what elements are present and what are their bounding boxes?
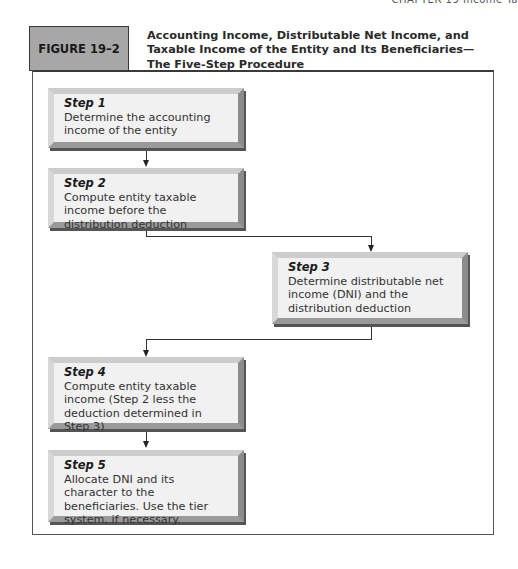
step-2-box: Step 2 Compute entity taxable income bef… xyxy=(48,168,244,228)
step-1-text: Determine the accounting income of the e… xyxy=(64,111,230,138)
step-1-box: Step 1 Determine the accounting income o… xyxy=(48,88,244,148)
arrow-down-icon xyxy=(143,350,149,357)
step-5-title: Step 5 xyxy=(64,459,230,473)
arrow-down-icon xyxy=(143,441,149,448)
step-3-title: Step 3 xyxy=(288,261,454,275)
step-1-title: Step 1 xyxy=(64,97,230,111)
step-5-text: Allocate DNI and its character to the be… xyxy=(64,473,230,527)
connector-3-4-horizontal xyxy=(146,339,372,340)
arrow-down-icon xyxy=(143,160,149,167)
running-head: CHAPTER 19 Income Ta xyxy=(392,0,518,5)
step-4-title: Step 4 xyxy=(64,366,230,380)
step-3-text: Determine distributable net income (DNI)… xyxy=(288,275,454,316)
connector-2-3-horizontal xyxy=(146,236,371,237)
figure-label: FIGURE 19–2 xyxy=(29,26,129,71)
arrow-down-icon xyxy=(368,245,374,252)
step-2-text: Compute entity taxable income before the… xyxy=(64,191,230,232)
step-4-box: Step 4 Compute entity taxable income (St… xyxy=(48,357,244,429)
figure-title: Accounting Income, Distributable Net Inc… xyxy=(147,29,487,72)
step-4-text: Compute entity taxable income (Step 2 le… xyxy=(64,380,230,434)
step-3-box: Step 3 Determine distributable net incom… xyxy=(272,252,468,324)
connector-3-4-down xyxy=(371,327,372,339)
step-5-box: Step 5 Allocate DNI and its character to… xyxy=(48,450,244,522)
step-2-title: Step 2 xyxy=(64,177,230,191)
figure-label-text: FIGURE 19–2 xyxy=(38,42,119,56)
